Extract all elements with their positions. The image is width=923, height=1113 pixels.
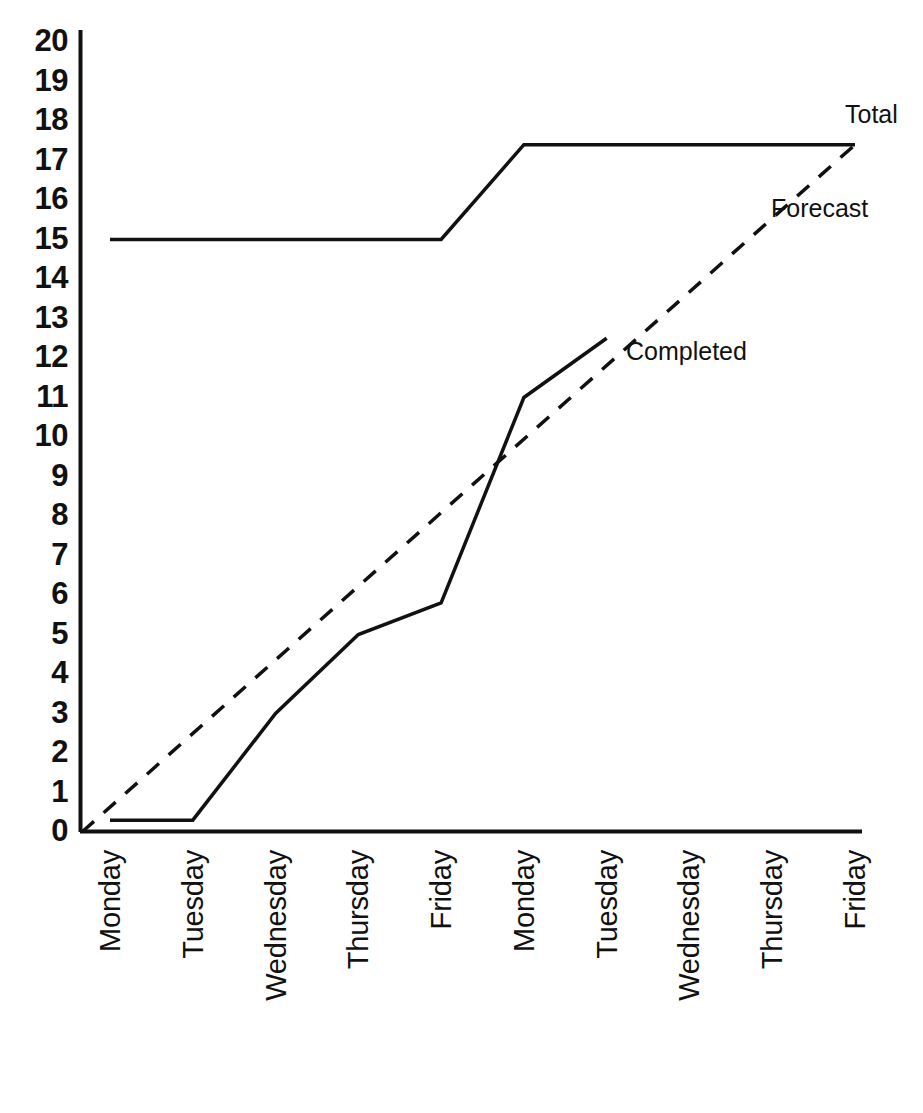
x-axis-tick-0-monday: Monday <box>93 850 127 1050</box>
x-axis-tick-labels: MondayTuesdayWednesdayThursdayFridayMond… <box>0 832 923 1113</box>
x-axis-tick-8-thursday: Thursday <box>755 850 789 1050</box>
series-label-total: Total <box>845 102 898 127</box>
x-axis-tick-1-tuesday: Tuesday <box>176 850 210 1050</box>
x-axis-tick-3-thursday: Thursday <box>341 850 375 1050</box>
x-axis-tick-6-tuesday: Tuesday <box>590 850 624 1050</box>
series-line-total <box>110 145 855 240</box>
series-label-forecast: Forecast <box>771 196 868 221</box>
series-line-completed <box>110 338 607 820</box>
series-line-forecast <box>82 145 855 832</box>
series-label-completed: Completed <box>626 339 747 364</box>
x-axis-tick-4-friday: Friday <box>424 850 458 1050</box>
x-axis-tick-2-wednesday: Wednesday <box>259 850 293 1050</box>
x-axis-tick-9-friday: Friday <box>838 850 872 1050</box>
x-axis-tick-7-wednesday: Wednesday <box>672 850 706 1050</box>
x-axis-tick-5-monday: Monday <box>507 850 541 1050</box>
burnup-chart: 20191817161514131211109876543210 Total F… <box>0 0 923 1113</box>
